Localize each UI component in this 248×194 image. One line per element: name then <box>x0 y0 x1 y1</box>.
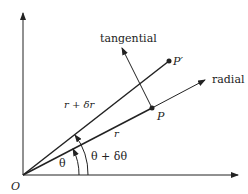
label-theta-plus-dtheta: θ + δθ <box>91 150 127 163</box>
point-p <box>150 106 155 111</box>
label-radial: radial <box>212 73 245 86</box>
label-theta: θ <box>59 157 66 170</box>
polar-coordinates-diagram: tangential radial P′ P r + δr r θ θ + δθ… <box>0 0 248 194</box>
theta-arc <box>73 149 79 175</box>
label-r-plus-dr: r + δr <box>64 99 96 110</box>
radial-arrow <box>152 80 205 108</box>
label-tangential: tangential <box>100 32 157 45</box>
label-p: P <box>156 110 165 123</box>
label-p-prime: P′ <box>172 55 183 68</box>
label-origin: O <box>11 180 20 193</box>
label-r: r <box>114 128 120 139</box>
point-p-prime <box>167 59 172 64</box>
theta-plus-dtheta-arc <box>75 135 88 175</box>
